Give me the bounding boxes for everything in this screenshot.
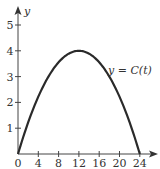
x-tick-label: 4 [35, 157, 42, 169]
ticks: 0481216202412345 [7, 19, 147, 169]
y-tick-label: 2 [7, 96, 14, 109]
y-axis-label: y [23, 5, 31, 18]
y-tick-label: 1 [7, 122, 14, 135]
x-tick-label: 24 [133, 157, 147, 169]
axes [15, 6, 159, 158]
x-tick-label: 20 [113, 157, 127, 169]
y-tick-label: 4 [7, 45, 14, 58]
x-tick-label: 16 [92, 157, 106, 169]
chart: 0481216202412345 y y = C(t) [0, 0, 160, 169]
x-tick-label: 0 [15, 157, 22, 169]
curve-label: y = C(t) [107, 64, 152, 77]
y-tick-label: 5 [7, 19, 14, 32]
y-tick-label: 3 [7, 71, 14, 84]
x-tick-label: 12 [72, 157, 86, 169]
x-tick-label: 8 [55, 157, 62, 169]
